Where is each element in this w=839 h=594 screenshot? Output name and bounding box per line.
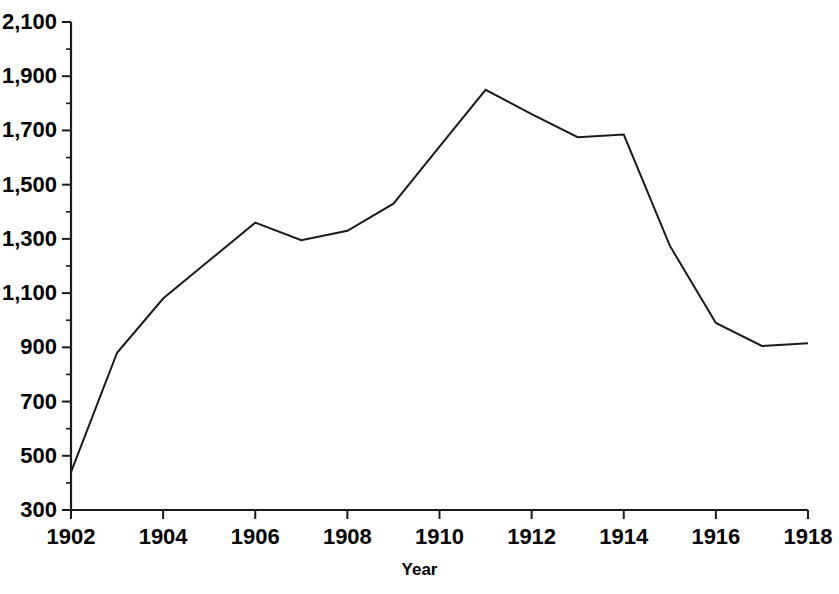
y-axis-tick-label: 1,100: [0, 282, 57, 304]
x-axis-tick-label: 1908: [312, 526, 382, 548]
y-axis-tick-label: 1,300: [0, 228, 57, 250]
x-axis-tick-label: 1914: [589, 526, 659, 548]
y-axis-tick-label: 1,700: [0, 119, 57, 141]
x-axis-tick-label: 1906: [220, 526, 290, 548]
y-axis-tick-label: 700: [0, 391, 57, 413]
x-axis-tick-label: 1904: [128, 526, 198, 548]
y-axis-tick-label: 900: [0, 336, 57, 358]
data-series: [71, 90, 808, 472]
y-axis-tick-label: 2,100: [0, 11, 57, 33]
x-axis-title: Year: [0, 560, 839, 580]
x-axis-tick-label: 1910: [405, 526, 475, 548]
x-axis-tick-label: 1918: [773, 526, 839, 548]
line-chart: 3005007009001,1001,3001,5001,7001,9002,1…: [0, 0, 839, 594]
y-axis-tick-label: 1,900: [0, 65, 57, 87]
axes: [62, 22, 808, 519]
y-axis-tick-label: 1,500: [0, 174, 57, 196]
x-axis-tick-label: 1902: [36, 526, 106, 548]
x-axis-tick-label: 1912: [497, 526, 567, 548]
chart-plot-area: [0, 0, 839, 594]
y-axis-tick-label: 500: [0, 445, 57, 467]
y-axis-tick-label: 300: [0, 499, 57, 521]
x-axis-tick-label: 1916: [681, 526, 751, 548]
